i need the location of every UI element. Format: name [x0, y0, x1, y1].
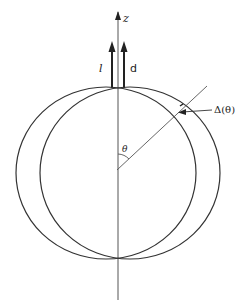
- delta-tick-icon: [180, 104, 183, 106]
- diagram-canvas: z l d θ Δ(θ): [0, 0, 241, 308]
- delta-label: Δ(θ): [214, 104, 235, 115]
- circle-left: [16, 87, 196, 259]
- delta-leader: [182, 110, 212, 112]
- vector-l-label: l: [99, 62, 103, 75]
- z-axis-label: z: [122, 12, 129, 25]
- vector-d-arrowhead-icon: [121, 41, 128, 52]
- theta-ray: [117, 86, 207, 170]
- vector-d-label: d: [130, 62, 137, 75]
- theta-arc: [118, 154, 129, 159]
- z-axis-arrowhead-icon: [115, 11, 121, 20]
- vector-l-arrowhead-icon: [109, 41, 116, 52]
- circle-right: [40, 87, 220, 259]
- theta-label: θ: [122, 144, 128, 154]
